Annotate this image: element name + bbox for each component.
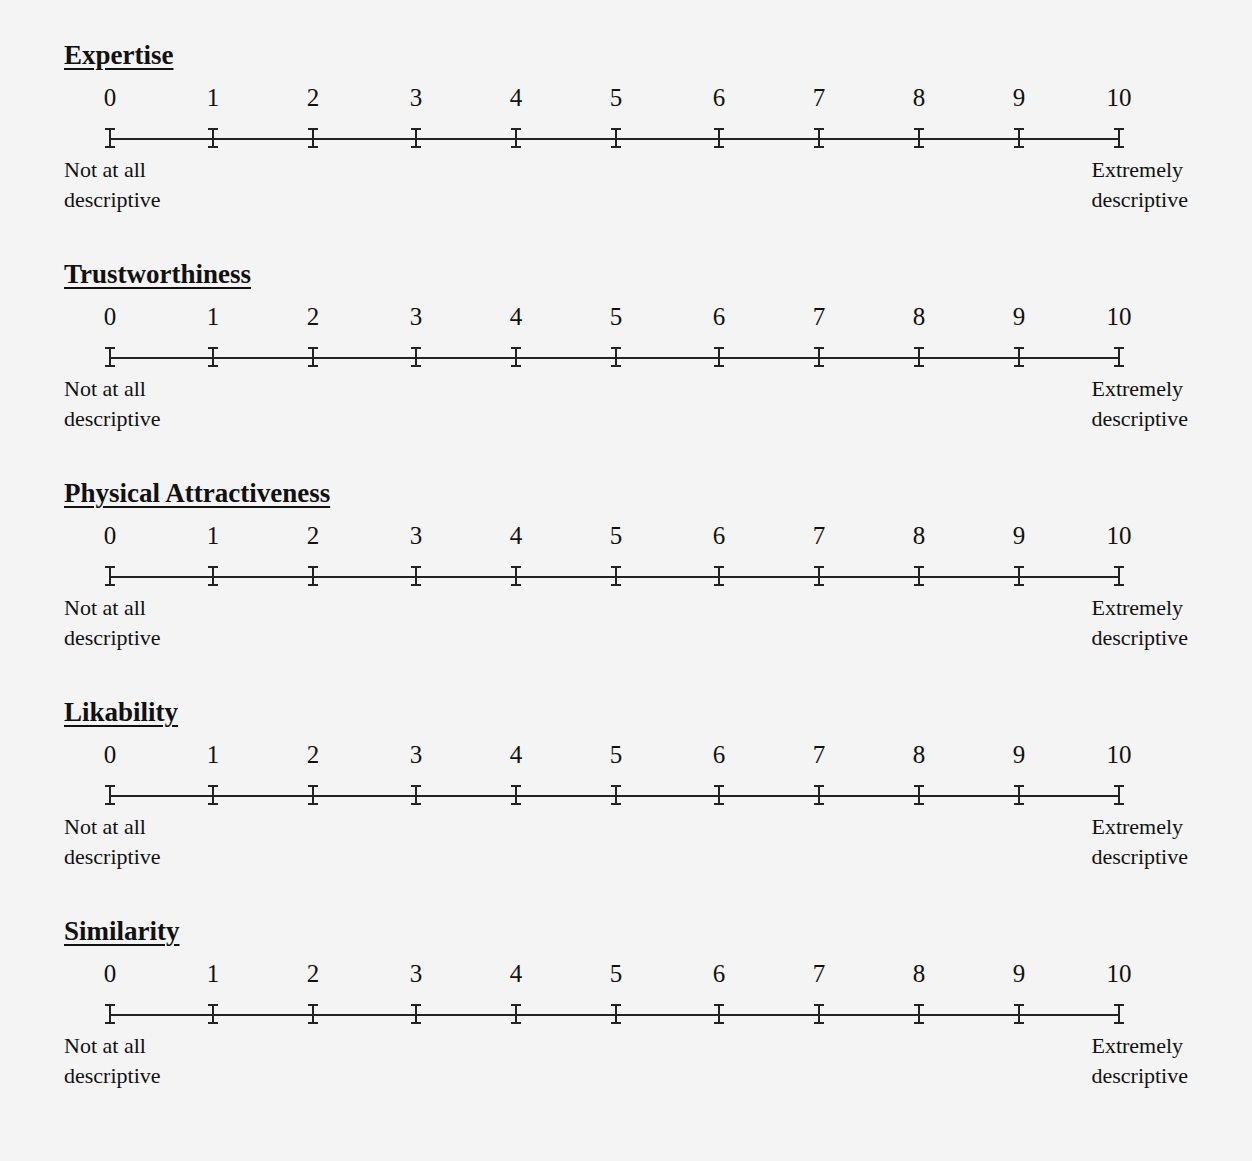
low-anchor-line2: descriptive	[64, 185, 161, 215]
scale-tick-1[interactable]	[212, 347, 214, 367]
scale-tick-3[interactable]	[415, 128, 417, 148]
low-anchor-line2: descriptive	[64, 404, 161, 434]
scale-tick-9[interactable]	[1018, 347, 1020, 367]
scale-tick-8[interactable]	[918, 785, 920, 805]
scale-tick-3[interactable]	[415, 1004, 417, 1024]
scale-tick-4[interactable]	[515, 1004, 517, 1024]
scale-tick-6[interactable]	[718, 566, 720, 586]
scale-number: 8	[913, 522, 926, 550]
scale-tick-6[interactable]	[718, 785, 720, 805]
scale-number: 5	[610, 303, 623, 331]
scale-tick-10[interactable]	[1118, 347, 1120, 367]
scale-tick-7[interactable]	[818, 1004, 820, 1024]
low-anchor-line2: descriptive	[64, 1061, 161, 1091]
scale-tick-5[interactable]	[615, 1004, 617, 1024]
scale-tick-7[interactable]	[818, 566, 820, 586]
scale-number: 0	[104, 960, 117, 988]
scale-title: Similarity	[64, 916, 180, 947]
low-anchor-label: Not at all descriptive	[64, 374, 161, 434]
high-anchor-label: Extremely descriptive	[1091, 812, 1188, 872]
scale-number: 8	[913, 741, 926, 769]
scale-tick-10[interactable]	[1118, 128, 1120, 148]
scale-title: Trustworthiness	[64, 259, 251, 290]
scale-tick-0[interactable]	[109, 128, 111, 148]
scale-tick-4[interactable]	[515, 566, 517, 586]
scale-tick-8[interactable]	[918, 128, 920, 148]
scale-tick-1[interactable]	[212, 566, 214, 586]
scale-tick-6[interactable]	[718, 1004, 720, 1024]
scale-tick-3[interactable]	[415, 785, 417, 805]
low-anchor-line2: descriptive	[64, 842, 161, 872]
scale-number: 4	[510, 303, 523, 331]
scale-number: 9	[1013, 84, 1026, 112]
scale-tick-2[interactable]	[312, 785, 314, 805]
scale-tick-1[interactable]	[212, 1004, 214, 1024]
scale-number: 7	[813, 522, 826, 550]
scale-tick-4[interactable]	[515, 128, 517, 148]
scale-tick-3[interactable]	[415, 566, 417, 586]
scale-number: 7	[813, 303, 826, 331]
scale-number: 6	[713, 84, 726, 112]
scale-tick-1[interactable]	[212, 785, 214, 805]
scale-number: 7	[813, 84, 826, 112]
scale-number: 6	[713, 960, 726, 988]
scale-number: 5	[610, 522, 623, 550]
scale-tick-2[interactable]	[312, 347, 314, 367]
scale-tick-2[interactable]	[312, 566, 314, 586]
scale-tick-0[interactable]	[109, 1004, 111, 1024]
scale-number: 9	[1013, 303, 1026, 331]
scale-tick-5[interactable]	[615, 785, 617, 805]
scale-tick-9[interactable]	[1018, 1004, 1020, 1024]
scale-number: 2	[307, 522, 320, 550]
scale-tick-0[interactable]	[109, 566, 111, 586]
scale-number: 5	[610, 960, 623, 988]
scale-number: 2	[307, 303, 320, 331]
scale-tick-5[interactable]	[615, 128, 617, 148]
scale-tick-0[interactable]	[109, 347, 111, 367]
scale-number: 4	[510, 960, 523, 988]
low-anchor-label: Not at all descriptive	[64, 593, 161, 653]
scale-number: 8	[913, 960, 926, 988]
scale-number: 10	[1107, 84, 1132, 112]
scale-number: 10	[1107, 741, 1132, 769]
scale-tick-10[interactable]	[1118, 1004, 1120, 1024]
high-anchor-line2: descriptive	[1091, 1061, 1188, 1091]
low-anchor-line1: Not at all	[64, 593, 161, 623]
scale-tick-10[interactable]	[1118, 785, 1120, 805]
high-anchor-line1: Extremely	[1091, 374, 1188, 404]
scale-tick-2[interactable]	[312, 128, 314, 148]
scale-tick-8[interactable]	[918, 566, 920, 586]
scale-tick-8[interactable]	[918, 1004, 920, 1024]
scale-tick-9[interactable]	[1018, 785, 1020, 805]
scale-number: 5	[610, 741, 623, 769]
scale-tick-3[interactable]	[415, 347, 417, 367]
scale-number: 8	[913, 84, 926, 112]
rating-scale-similarity: Similarity012345678910 Not at all descri…	[0, 916, 1252, 1116]
scale-tick-9[interactable]	[1018, 128, 1020, 148]
scale-tick-5[interactable]	[615, 566, 617, 586]
scale-tick-7[interactable]	[818, 128, 820, 148]
scale-tick-10[interactable]	[1118, 566, 1120, 586]
scale-tick-7[interactable]	[818, 785, 820, 805]
high-anchor-label: Extremely descriptive	[1091, 155, 1188, 215]
scale-tick-2[interactable]	[312, 1004, 314, 1024]
scale-tick-6[interactable]	[718, 128, 720, 148]
scale-tick-6[interactable]	[718, 347, 720, 367]
high-anchor-label: Extremely descriptive	[1091, 593, 1188, 653]
scale-tick-4[interactable]	[515, 347, 517, 367]
scale-tick-5[interactable]	[615, 347, 617, 367]
scale-tick-8[interactable]	[918, 347, 920, 367]
high-anchor-line2: descriptive	[1091, 842, 1188, 872]
scale-number: 2	[307, 741, 320, 769]
scale-tick-4[interactable]	[515, 785, 517, 805]
scale-number: 1	[207, 522, 220, 550]
low-anchor-line1: Not at all	[64, 374, 161, 404]
scale-title: Expertise	[64, 40, 173, 71]
scale-tick-9[interactable]	[1018, 566, 1020, 586]
high-anchor-line1: Extremely	[1091, 1031, 1188, 1061]
scale-tick-7[interactable]	[818, 347, 820, 367]
scale-tick-0[interactable]	[109, 785, 111, 805]
scale-tick-1[interactable]	[212, 128, 214, 148]
scale-number: 5	[610, 84, 623, 112]
scale-number: 6	[713, 522, 726, 550]
